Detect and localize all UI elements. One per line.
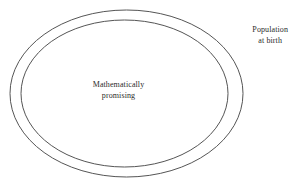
outer-set-label: Population at birth: [252, 25, 288, 46]
diagram-canvas: Population at birth Mathematically promi…: [0, 0, 295, 188]
inner-set-label: Mathematically promising: [0, 80, 237, 101]
outer-set-label-line-2: at birth: [252, 36, 288, 47]
inner-set-label-line-1: Mathematically: [0, 80, 237, 91]
outer-set-label-line-1: Population: [252, 25, 288, 36]
inner-set-label-line-2: promising: [0, 91, 237, 102]
